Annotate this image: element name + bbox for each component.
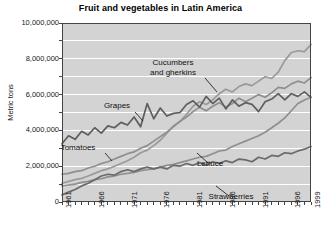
chart-figure: Fruit and vegetables in Latin America 10… bbox=[0, 0, 321, 241]
x-tick-label: 1991 bbox=[262, 191, 270, 208]
x-tick-label: 1996 bbox=[294, 191, 302, 208]
x-tick-label: 1976 bbox=[163, 191, 171, 208]
x-tick-label: 1999 bbox=[314, 191, 321, 208]
x-axis-tick-labels: 196119661971197619811986199119961999 bbox=[0, 0, 321, 241]
x-tick-label: 1966 bbox=[98, 191, 106, 208]
x-tick-label: 1961 bbox=[65, 191, 73, 208]
x-tick-label: 1986 bbox=[229, 191, 237, 208]
x-tick-label: 1981 bbox=[196, 191, 204, 208]
x-tick-label: 1971 bbox=[131, 191, 139, 208]
